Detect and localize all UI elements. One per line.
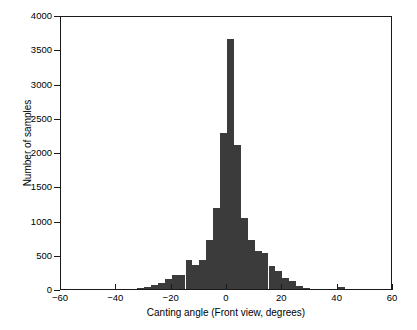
plot-area (60, 16, 392, 290)
x-axis-tick (337, 284, 338, 290)
histogram-bar (172, 275, 179, 289)
y-axis-tick-label: 4000 (0, 11, 52, 21)
histogram-bar (192, 265, 199, 289)
x-axis-tick-label: 60 (372, 292, 412, 304)
y-axis-tick-label-text: 4000 (8, 11, 52, 21)
histogram-bar (186, 260, 193, 289)
y-axis-tick-label: 3000 (0, 80, 52, 90)
histogram-bar (255, 251, 262, 289)
histogram-figure: Number of samples 0500100015002000250030… (0, 0, 417, 330)
histogram-bar (241, 218, 248, 289)
x-axis-tick (392, 284, 393, 290)
x-axis-tick-label-text: 20 (261, 292, 301, 304)
y-axis-tick-label: 1000 (0, 217, 52, 227)
histogram-bar (234, 145, 241, 289)
x-axis-tick-label: −20 (151, 292, 191, 304)
x-axis-tick-label: 40 (317, 292, 357, 304)
histogram-bar (338, 287, 345, 289)
histogram-bars (61, 17, 391, 289)
histogram-bar (144, 287, 151, 289)
histogram-bar (296, 286, 303, 289)
x-axis-tick (281, 284, 282, 290)
x-axis-tick (226, 284, 227, 290)
y-axis-tick-label-text: 3000 (8, 80, 52, 90)
y-axis-tick-label-text: 3500 (8, 45, 52, 55)
histogram-bar (289, 281, 296, 289)
histogram-bar (137, 288, 144, 289)
x-axis-tick-label: −40 (95, 292, 135, 304)
histogram-bar (158, 283, 165, 290)
histogram-bar (206, 240, 213, 289)
y-axis-tick (54, 290, 60, 291)
y-axis-tick-label-text: 1500 (8, 182, 52, 192)
x-axis-tick-label-text: 60 (372, 292, 412, 304)
y-axis-tick-label-text: 500 (8, 251, 52, 261)
y-axis-tick-label-text: 2000 (8, 148, 52, 158)
histogram-bar (248, 240, 255, 289)
x-axis-tick-label-text: −60 (40, 292, 80, 304)
x-axis-tick-label-text: −40 (95, 292, 135, 304)
x-axis-title: Canting angle (Front view, degrees) (60, 307, 392, 319)
histogram-bar (227, 39, 234, 289)
histogram-bar (213, 208, 220, 289)
y-axis-tick-label: 2500 (0, 114, 52, 124)
x-axis-tick-label-text: −20 (151, 292, 191, 304)
y-axis-tick-label: 3500 (0, 45, 52, 55)
histogram-bar (282, 278, 289, 289)
x-axis-tick-label-text: 40 (317, 292, 357, 304)
x-axis-tick (60, 284, 61, 290)
y-axis-tick-label-text: 1000 (8, 217, 52, 227)
x-axis-tick (171, 284, 172, 290)
histogram-bar (179, 275, 186, 289)
histogram-bar (220, 133, 227, 289)
y-axis-tick-label: 2000 (0, 148, 52, 158)
y-axis-tick-label: 500 (0, 251, 52, 261)
histogram-bar (151, 285, 158, 289)
x-axis-tick-label: −60 (40, 292, 80, 304)
histogram-bar (303, 288, 310, 289)
histogram-bar (199, 260, 206, 289)
histogram-bar (262, 253, 269, 289)
x-axis-tick-label: 20 (261, 292, 301, 304)
y-axis-tick-label-text: 2500 (8, 114, 52, 124)
x-axis-tick-label: 0 (206, 292, 246, 304)
x-axis-tick (115, 284, 116, 290)
y-axis-tick-label: 1500 (0, 182, 52, 192)
histogram-bar (269, 266, 276, 289)
x-axis-tick-label-text: 0 (206, 292, 246, 304)
